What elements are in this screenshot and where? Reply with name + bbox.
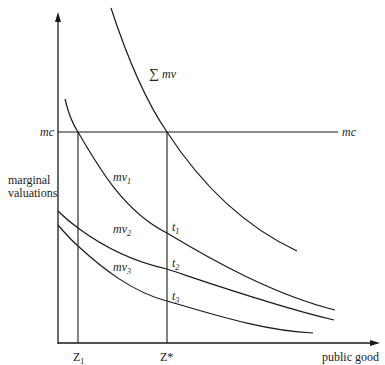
mv2-label: mv2 bbox=[113, 222, 131, 238]
z1-tick-label: Z1 bbox=[73, 350, 84, 365]
y-axis-arrow-icon bbox=[55, 12, 61, 22]
diagram-canvas bbox=[0, 0, 385, 365]
t1-label: t1 bbox=[172, 220, 179, 236]
mv2-curve bbox=[58, 211, 334, 320]
sum-mv-label: ∑ mv bbox=[149, 66, 176, 82]
mv3-label: mv3 bbox=[113, 260, 131, 276]
xlabel: public good bbox=[322, 350, 379, 365]
t3-label: t3 bbox=[172, 289, 179, 305]
zstar-tick-label: Z* bbox=[160, 350, 173, 365]
ylabel-line2: valuations bbox=[8, 186, 57, 201]
mv1-label: mv1 bbox=[113, 170, 131, 186]
mc-left-label: mc bbox=[40, 125, 54, 140]
sigma-icon: ∑ bbox=[149, 66, 159, 81]
mc-right-label: mc bbox=[342, 125, 356, 140]
mv1-curve bbox=[65, 99, 335, 310]
mv3-curve bbox=[58, 225, 313, 333]
x-axis-arrow-icon bbox=[370, 340, 380, 346]
t2-label: t2 bbox=[172, 256, 179, 272]
